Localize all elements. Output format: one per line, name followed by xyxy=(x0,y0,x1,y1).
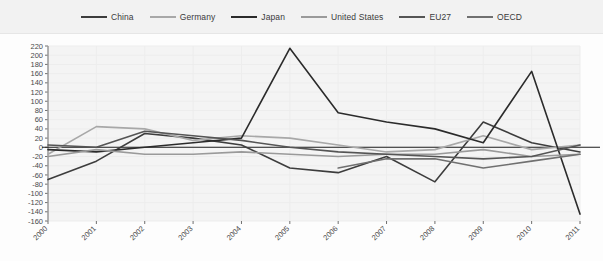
legend-item-label: Japan xyxy=(261,12,285,22)
plot-background xyxy=(48,46,580,221)
x-axis-tick-label: 2000 xyxy=(31,224,49,242)
legend-item-label: OECD xyxy=(497,12,522,22)
y-axis-tick-label: 40 xyxy=(35,124,43,133)
x-axis-tick-label: 2003 xyxy=(176,224,194,242)
legend-line-icon xyxy=(301,16,327,18)
legend-item-label: United States xyxy=(331,12,383,22)
legend-item-japan[interactable]: Japan xyxy=(231,12,285,22)
x-axis-tick-label: 2011 xyxy=(564,224,582,242)
legend-item-china[interactable]: China xyxy=(81,12,134,22)
legend-line-icon xyxy=(399,16,425,18)
y-axis-tick-label: -160 xyxy=(28,217,43,226)
y-axis-tick-label: -40 xyxy=(32,161,43,170)
legend-item-eu27[interactable]: EU27 xyxy=(399,12,451,22)
line-chart-svg: 220200180160140120100806040200-20-40-60-… xyxy=(0,34,603,261)
legend-item-label: China xyxy=(111,12,134,22)
y-axis-tick-label: -120 xyxy=(28,198,43,207)
y-axis-tick-label: -100 xyxy=(28,189,43,198)
y-axis-tick-label: 180 xyxy=(30,60,43,69)
legend-item-label: Germany xyxy=(180,12,216,22)
y-axis-tick-label: -20 xyxy=(32,152,43,161)
legend-item-germany[interactable]: Germany xyxy=(150,12,216,22)
x-axis-tick-label: 2005 xyxy=(273,224,291,242)
plot-area: 220200180160140120100806040200-20-40-60-… xyxy=(0,34,603,261)
y-axis-tick-label: 200 xyxy=(30,51,43,60)
y-axis-tick-label: 80 xyxy=(35,106,43,115)
y-axis-tick-label: 160 xyxy=(30,69,43,78)
y-axis-tick-label: -60 xyxy=(32,171,43,180)
x-axis-tick-label: 2006 xyxy=(321,224,339,242)
chart-legend: ChinaGermanyJapanUnited StatesEU27OECD xyxy=(0,0,603,34)
chart-figure: ChinaGermanyJapanUnited StatesEU27OECD 2… xyxy=(0,0,603,261)
x-axis-tick-label: 2009 xyxy=(467,224,485,242)
x-axis-tick-label: 2001 xyxy=(80,224,98,242)
y-axis-tick-label: 20 xyxy=(35,134,43,143)
x-axis-tick-label: 2008 xyxy=(418,224,436,242)
y-axis-tick-label: -80 xyxy=(32,180,43,189)
x-axis-tick-label: 2007 xyxy=(370,224,388,242)
legend-item-label: EU27 xyxy=(429,12,451,22)
y-axis-tick-label: 220 xyxy=(30,42,43,51)
y-axis-tick-label: -140 xyxy=(28,207,43,216)
y-axis-tick-label: 140 xyxy=(30,78,43,87)
legend-item-oecd[interactable]: OECD xyxy=(467,12,522,22)
legend-item-united-states[interactable]: United States xyxy=(301,12,383,22)
legend-line-icon xyxy=(150,16,176,18)
legend-line-icon xyxy=(81,16,107,18)
x-axis-tick-label: 2010 xyxy=(515,224,533,242)
x-axis-tick-label: 2002 xyxy=(128,224,146,242)
y-axis-tick-label: 120 xyxy=(30,88,43,97)
legend-line-icon xyxy=(231,16,257,18)
legend-line-icon xyxy=(467,16,493,18)
y-axis-tick-label: 60 xyxy=(35,115,43,124)
y-axis-tick-label: 100 xyxy=(30,97,43,106)
x-axis-tick-label: 2004 xyxy=(225,224,243,242)
